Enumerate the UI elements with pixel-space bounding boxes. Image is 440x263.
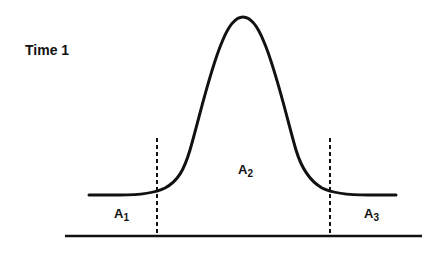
- diagram-title: Time 1: [25, 42, 69, 58]
- region-label-a3: A3: [364, 206, 379, 223]
- region-label-a2: A2: [238, 162, 253, 179]
- distribution-diagram: Time 1 A1 A2 A3: [0, 0, 440, 263]
- region-label-a1: A1: [114, 206, 129, 223]
